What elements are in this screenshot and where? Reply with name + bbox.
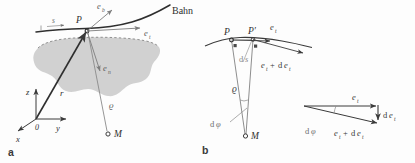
svg-text:t: t bbox=[149, 34, 151, 40]
svg-text:d: d bbox=[383, 110, 388, 120]
label-arclength-s: s bbox=[52, 16, 55, 25]
svg-text:d: d bbox=[239, 54, 244, 64]
svg-text:+: + bbox=[343, 128, 348, 138]
svg-text:φ: φ bbox=[216, 119, 221, 129]
panel-b: P P′ e t e t + d e t d s ϱ d bbox=[202, 22, 396, 156]
label-trajectory-bahn: Bahn bbox=[172, 5, 193, 16]
svg-text:e: e bbox=[389, 110, 393, 120]
dphi-leader-line bbox=[230, 108, 247, 122]
label-tangent-at-Pprime: e t + d e t bbox=[261, 60, 291, 72]
label-triangle-vector-et-plus-det: e t + d e t bbox=[334, 128, 364, 140]
svg-text:e: e bbox=[103, 63, 107, 73]
label-curvature-radius-rho-b: ϱ bbox=[232, 84, 237, 94]
svg-text:e: e bbox=[357, 128, 361, 138]
svg-text:φ: φ bbox=[311, 126, 316, 136]
label-triangle-angle-dphi: d φ bbox=[305, 126, 316, 136]
svg-text:e: e bbox=[334, 128, 338, 138]
svg-text:s: s bbox=[245, 54, 249, 64]
svg-text:d: d bbox=[351, 128, 356, 138]
svg-text:e: e bbox=[261, 60, 265, 70]
trajectory-curve-b bbox=[205, 37, 312, 47]
center-M-marker bbox=[106, 132, 110, 136]
label-position-vector-r: r bbox=[60, 88, 64, 98]
label-binormal-vector: e b bbox=[97, 1, 105, 13]
right-angle-marker-Pprime bbox=[254, 45, 257, 48]
svg-text:t: t bbox=[339, 134, 341, 140]
vector-triangle bbox=[304, 105, 378, 123]
mechanics-frenet-frame-figure: s P e b e t e n ϱ M r bbox=[0, 0, 415, 163]
label-angle-element-dphi: d φ bbox=[210, 119, 221, 129]
label-point-P-b: P bbox=[223, 27, 230, 37]
svg-text:d: d bbox=[210, 119, 215, 129]
svg-text:d: d bbox=[278, 60, 283, 70]
svg-text:t: t bbox=[394, 116, 396, 122]
tangent-vector-at-Pprime bbox=[253, 40, 303, 54]
svg-text:d: d bbox=[305, 126, 310, 136]
svg-text:e: e bbox=[352, 92, 356, 102]
panel-letter-a: a bbox=[8, 146, 14, 158]
right-angle-marker-P bbox=[234, 44, 237, 47]
label-tangent-at-P: e t bbox=[270, 22, 277, 34]
label-triangle-vector-et: e t bbox=[352, 92, 359, 104]
label-axis-y: y bbox=[55, 123, 60, 133]
panel-a: s P e b e t e n ϱ M r bbox=[8, 1, 193, 158]
label-axis-origin: 0 bbox=[35, 123, 39, 132]
angle-arc-dphi bbox=[240, 100, 248, 101]
label-tangent-vector: e t bbox=[144, 28, 151, 40]
label-center-M-b: M bbox=[250, 131, 260, 141]
svg-text:t: t bbox=[357, 98, 359, 104]
svg-text:e: e bbox=[284, 60, 288, 70]
label-point-Pprime: P′ bbox=[247, 26, 257, 36]
svg-text:t: t bbox=[362, 134, 364, 140]
tangent-vector-at-P bbox=[232, 40, 271, 41]
label-axis-z: z bbox=[25, 87, 30, 97]
triangle-angle-arc-dphi bbox=[334, 106, 336, 114]
osculating-plane-shade bbox=[33, 37, 160, 96]
svg-text:e: e bbox=[144, 28, 148, 38]
svg-text:t: t bbox=[289, 66, 291, 72]
panel-letter-b: b bbox=[202, 144, 208, 156]
label-center-M: M bbox=[113, 129, 123, 139]
svg-text:e: e bbox=[270, 22, 274, 32]
svg-text:+: + bbox=[270, 60, 275, 70]
axis-x bbox=[18, 119, 36, 131]
svg-text:t: t bbox=[266, 66, 268, 72]
label-curvature-radius-rho: ϱ bbox=[109, 100, 114, 110]
label-triangle-vector-det: d e t bbox=[383, 110, 396, 122]
triangle-vector-et-plus-det bbox=[304, 106, 377, 123]
svg-text:n: n bbox=[108, 69, 111, 75]
svg-text:b: b bbox=[102, 7, 105, 13]
label-point-P: P bbox=[75, 15, 82, 25]
center-M-marker-b bbox=[243, 134, 247, 138]
svg-text:t: t bbox=[275, 28, 277, 34]
label-axis-x: x bbox=[15, 134, 20, 144]
svg-text:e: e bbox=[97, 1, 101, 11]
